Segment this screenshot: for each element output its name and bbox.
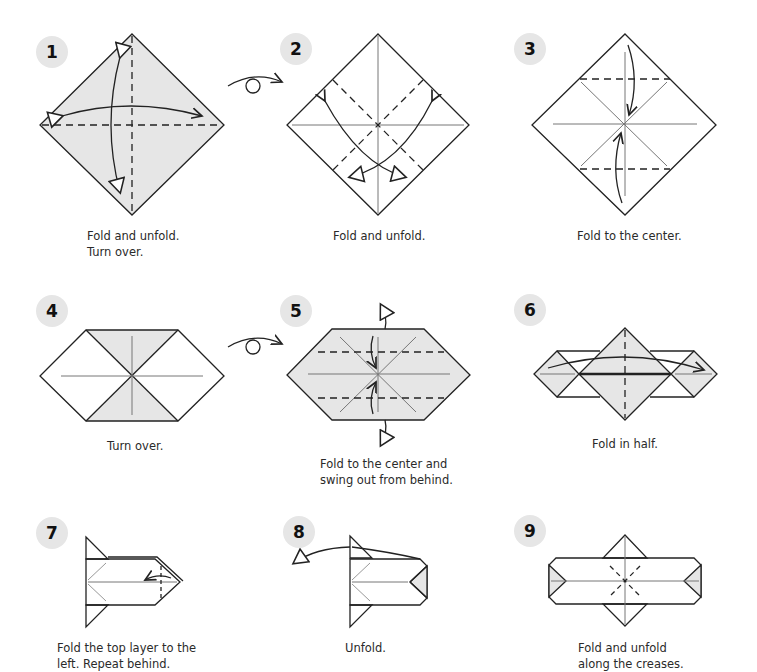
step-number-badge: 8 — [283, 516, 315, 548]
step-number-badge: 4 — [36, 295, 68, 327]
step-number-badge: 6 — [514, 294, 546, 326]
step-number-badge: 2 — [280, 33, 312, 65]
turn-over-icon — [228, 338, 282, 354]
step-caption: Fold to the center. — [577, 228, 682, 244]
step-4-diagram — [40, 330, 224, 421]
step-number-badge: 5 — [280, 295, 312, 327]
step-caption: Unfold. — [345, 640, 386, 656]
step-number-badge: 9 — [514, 515, 546, 547]
step-7-diagram — [86, 537, 183, 627]
step-6-diagram — [534, 328, 717, 420]
step-3-diagram — [532, 34, 716, 215]
step-caption: Fold in half. — [592, 436, 658, 452]
step-1-diagram — [40, 34, 224, 215]
step-number-badge: 3 — [514, 33, 546, 65]
step-caption: Fold the top layer to the left. Repeat b… — [57, 640, 196, 672]
step-8-diagram — [294, 536, 427, 627]
step-9-diagram — [549, 535, 701, 626]
step-caption: Fold and unfold. — [333, 228, 426, 244]
step-number-badge: 7 — [36, 517, 68, 549]
step-2-diagram — [287, 34, 469, 215]
step-caption: Fold and unfold. Turn over. — [87, 228, 180, 260]
step-number-badge: 1 — [36, 36, 68, 68]
step-caption: Turn over. — [107, 438, 163, 454]
step-5-diagram — [287, 305, 470, 445]
step-caption: Fold to the center and swing out from be… — [320, 456, 453, 488]
step-caption: Fold and unfold along the creases. — [578, 640, 684, 672]
turn-over-icon — [228, 77, 282, 93]
